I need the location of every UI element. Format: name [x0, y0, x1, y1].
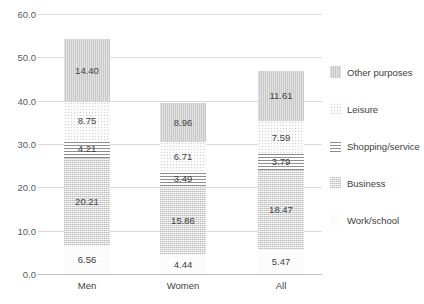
- segment-women-leisure[interactable]: 6.71: [160, 142, 206, 171]
- gridline-60: [38, 14, 322, 15]
- x-tick-men: Men: [42, 280, 132, 291]
- plot-area: 14.40 8.75 4.21 20.21 6.56 8.96 6.71: [38, 14, 322, 274]
- segment-all-business[interactable]: 18.47: [258, 170, 304, 250]
- value-label: 6.56: [78, 255, 97, 265]
- value-label: 7.59: [272, 133, 291, 143]
- bar-all[interactable]: 11.61 7.59 3.79 18.47 5.47: [258, 71, 304, 274]
- stacked-bar-chart: 60.0 50.0 40.0 30.0 20.0 10.0 0.0 14.40 …: [0, 0, 424, 304]
- segment-women-shopping-service[interactable]: 3.49: [160, 171, 206, 186]
- x-tick-women: Women: [138, 280, 228, 291]
- value-label: 20.21: [75, 197, 99, 207]
- legend-label: Other purposes: [347, 67, 412, 78]
- legend-item-business[interactable]: Business: [330, 175, 424, 191]
- swatch-leisure-icon: [330, 103, 341, 115]
- swatch-shopping-service-icon: [330, 140, 341, 152]
- segment-women-business[interactable]: 15.86: [160, 186, 206, 255]
- segment-men-other-purposes[interactable]: 14.40: [64, 39, 110, 101]
- segment-women-other-purposes[interactable]: 8.96: [160, 103, 206, 142]
- legend: Other purposes Leisure Shopping/service …: [330, 64, 424, 249]
- value-label: 14.40: [75, 66, 99, 76]
- segment-men-business[interactable]: 20.21: [64, 158, 110, 246]
- legend-label: Shopping/service: [347, 141, 420, 152]
- legend-item-work-school[interactable]: Work/school: [330, 212, 424, 228]
- y-tick-40: 40.0: [2, 95, 36, 106]
- y-tick-10: 10.0: [2, 225, 36, 236]
- legend-item-leisure[interactable]: Leisure: [330, 101, 424, 117]
- value-label: 3.79: [272, 157, 291, 167]
- y-tick-30: 30.0: [2, 139, 36, 150]
- segment-all-other-purposes[interactable]: 11.61: [258, 71, 304, 121]
- segment-men-work-school[interactable]: 6.56: [64, 246, 110, 274]
- swatch-other-purposes-icon: [330, 66, 341, 78]
- y-tick-60: 60.0: [2, 9, 36, 20]
- value-label: 8.75: [78, 116, 97, 126]
- value-label: 8.96: [174, 118, 193, 128]
- legend-item-other-purposes[interactable]: Other purposes: [330, 64, 424, 80]
- legend-label: Business: [347, 178, 386, 189]
- legend-label: Work/school: [347, 215, 399, 226]
- swatch-business-icon: [330, 177, 341, 189]
- y-tick-20: 20.0: [2, 182, 36, 193]
- legend-item-shopping-service[interactable]: Shopping/service: [330, 138, 424, 154]
- value-label: 6.71: [174, 152, 193, 162]
- swatch-work-school-icon: [330, 214, 341, 226]
- segment-men-leisure[interactable]: 8.75: [64, 102, 110, 140]
- segment-all-work-school[interactable]: 5.47: [258, 250, 304, 274]
- value-label: 5.47: [272, 257, 291, 267]
- value-label: 18.47: [269, 205, 293, 215]
- segment-all-shopping-service[interactable]: 3.79: [258, 154, 304, 170]
- gridline-0-baseline: [38, 274, 322, 275]
- segment-women-work-school[interactable]: 4.44: [160, 255, 206, 274]
- x-tick-all: All: [236, 280, 326, 291]
- value-label: 15.86: [171, 216, 195, 226]
- value-label: 11.61: [269, 91, 292, 101]
- value-label: 3.49: [174, 174, 193, 184]
- segment-men-shopping-service[interactable]: 4.21: [64, 140, 110, 158]
- segment-all-leisure[interactable]: 7.59: [258, 121, 304, 154]
- value-label: 4.44: [174, 260, 193, 270]
- bar-women[interactable]: 8.96 6.71 3.49 15.86 4.44: [160, 103, 206, 274]
- y-tick-50: 50.0: [2, 52, 36, 63]
- legend-label: Leisure: [347, 104, 378, 115]
- y-axis: 60.0 50.0 40.0 30.0 20.0 10.0 0.0: [0, 14, 36, 274]
- y-tick-0: 0.0: [2, 269, 36, 280]
- value-label: 4.21: [78, 144, 97, 154]
- bar-men[interactable]: 14.40 8.75 4.21 20.21 6.56: [64, 39, 110, 274]
